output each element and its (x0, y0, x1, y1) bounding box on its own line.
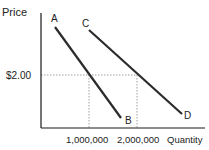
label-a: A (51, 13, 58, 24)
q1-tick-label: 1,000,000 (66, 134, 108, 145)
price-tick-label: $2.00 (6, 70, 31, 81)
label-b: B (125, 115, 132, 126)
q2-tick-label: 2,000,000 (117, 134, 159, 145)
chart: Price $2.00 A C B D 1,000,000 2,000,000 … (0, 0, 209, 150)
label-d: D (184, 110, 191, 121)
line-ab (55, 27, 121, 118)
x-axis-label: Quantity (167, 134, 203, 145)
y-axis-label: Price (2, 6, 27, 18)
line-cd (89, 30, 182, 114)
label-c: C (82, 18, 89, 29)
